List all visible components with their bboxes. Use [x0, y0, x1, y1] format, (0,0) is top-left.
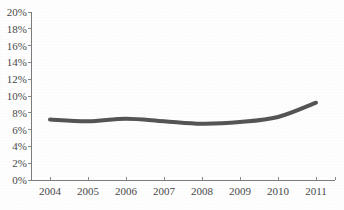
- x-axis-tick-label: 2009: [229, 185, 252, 197]
- y-axis-tick-label: 0%: [12, 174, 27, 186]
- x-axis-tick-label: 2008: [191, 185, 214, 197]
- y-axis-tick-label: 2%: [12, 157, 27, 169]
- y-axis-tick-label: 20%: [7, 6, 27, 18]
- y-axis-tick-label: 4%: [12, 140, 27, 152]
- x-axis-tick-label: 2005: [77, 185, 100, 197]
- y-axis-tick-label: 6%: [12, 124, 27, 136]
- x-axis-tick-label: 2004: [39, 185, 62, 197]
- y-axis-tick-label: 8%: [12, 107, 27, 119]
- x-axis-tick-label: 2010: [267, 185, 290, 197]
- chart-background: [0, 0, 344, 210]
- chart-canvas: 20% 18% 16% 14% 12% 10% 8% 6% 4% 2% 0%: [0, 0, 344, 210]
- line-chart: 20% 18% 16% 14% 12% 10% 8% 6% 4% 2% 0%: [0, 0, 344, 210]
- x-axis-tick-label: 2007: [153, 185, 176, 197]
- x-axis-tick-label: 2006: [115, 185, 138, 197]
- y-axis-tick-label: 18%: [7, 23, 27, 35]
- y-axis-tick-label: 14%: [7, 56, 27, 68]
- y-axis-tick-label: 10%: [7, 90, 27, 102]
- x-axis-tick-label: 2011: [305, 185, 327, 197]
- y-axis-tick-label: 12%: [7, 73, 27, 85]
- y-axis-tick-label: 16%: [7, 40, 27, 52]
